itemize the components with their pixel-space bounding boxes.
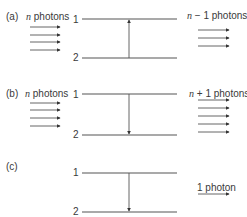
panel-label: (b) — [6, 89, 18, 99]
incoming-photons-label: n photons — [25, 89, 68, 99]
energy-level-diagram: (a) n photons 1 2 n − 1 photons (b) n ph… — [0, 0, 247, 217]
level-2-label: 2 — [73, 130, 79, 140]
level-1-label: 1 — [73, 168, 79, 178]
incoming-photons-label: n photons — [26, 12, 69, 22]
level-2-label: 2 — [73, 207, 79, 217]
level-1-label: 1 — [73, 15, 79, 25]
level-1-label: 1 — [73, 90, 79, 100]
outgoing-photon-label: 1 photon — [197, 183, 236, 193]
panel-label: (a) — [6, 12, 18, 22]
outgoing-photons-label: n + 1 photons — [189, 89, 247, 99]
outgoing-photons-label: n − 1 photons — [187, 11, 247, 21]
panel-label: (c) — [6, 162, 18, 172]
level-2-label: 2 — [73, 53, 79, 63]
